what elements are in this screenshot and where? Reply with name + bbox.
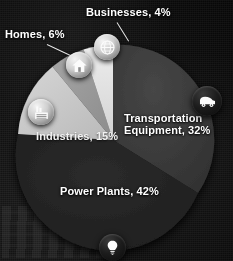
label-businesses: Businesses, 4%: [86, 6, 171, 18]
label-power-plants: Power Plants, 42%: [60, 185, 159, 197]
truck-icon: [192, 86, 222, 116]
pie-slices: [16, 45, 215, 251]
factory-icon-glyph: [33, 104, 50, 121]
label-transportation-line1: Transportation: [124, 112, 202, 124]
globe-icon: [94, 34, 120, 60]
label-homes: Homes, 6%: [5, 28, 65, 40]
label-transportation-equipment: Transportation Equipment, 32%: [124, 112, 210, 137]
pie-chart-figure: Businesses, 4% Homes, 6% Industries, 15%…: [0, 0, 233, 261]
house-icon: [66, 52, 92, 78]
label-transportation-line2: Equipment, 32%: [124, 124, 210, 136]
globe-icon-glyph: [99, 39, 116, 56]
lightbulb-icon-glyph: [104, 239, 121, 256]
lightbulb-icon: [99, 234, 126, 261]
truck-icon-glyph: [198, 92, 217, 111]
factory-icon: [28, 99, 54, 125]
house-icon-glyph: [71, 57, 88, 74]
label-industries: Industries, 15%: [36, 130, 118, 142]
